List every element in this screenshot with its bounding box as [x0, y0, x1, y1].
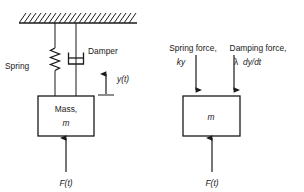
mass-label-line1: Mass,: [55, 104, 77, 114]
fbd-mass-label: m: [208, 112, 215, 122]
right-diagram-group: Spring force, ky Damping force, λ dy/dt …: [169, 43, 286, 188]
lambda-symbol: λ: [234, 57, 239, 67]
damping-force-label-line2: λ dy/dt: [234, 57, 262, 67]
damper-label: Damper: [88, 46, 118, 56]
spring-force-label-line2: ky: [177, 57, 186, 67]
spring-label: Spring: [5, 61, 30, 71]
fbd-input-force-label: F(t): [205, 178, 218, 188]
spring-force-label-line1: Spring force,: [169, 43, 216, 53]
left-diagram-group: Spring Damper y(t) Mass, m F(t): [5, 13, 137, 188]
displacement-label: y(t): [116, 74, 129, 84]
displacement-arrow-group: y(t): [98, 74, 129, 95]
diagram-svg: Spring Damper y(t) Mass, m F(t) Spring f…: [0, 0, 304, 192]
mass-label-line2: m: [63, 118, 70, 128]
mass-box: [38, 96, 94, 136]
figure-canvas: Spring Damper y(t) Mass, m F(t) Spring f…: [0, 0, 304, 192]
damping-force-label-line1: Damping force,: [230, 43, 287, 53]
input-force-label: F(t): [59, 178, 72, 188]
spring-coil: [51, 48, 60, 71]
fixed-support-hatching: [19, 13, 137, 23]
damping-force-expression: dy/dt: [243, 57, 262, 67]
